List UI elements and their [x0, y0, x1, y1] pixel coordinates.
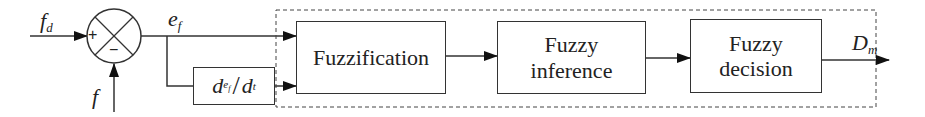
fuzzy-decision-label-line1: Fuzzy	[729, 31, 783, 56]
error-label: ef	[168, 8, 181, 32]
fuzzy-inference-label-line2: inference	[531, 58, 613, 83]
minus-sign: −	[109, 42, 118, 58]
feedback-label: f	[92, 86, 98, 108]
derivative-denominator: d	[242, 73, 253, 98]
output-label: Dm	[852, 32, 877, 56]
fuzzy-decision-label-line2: decision	[719, 56, 792, 81]
derivative-block: def/dt	[193, 67, 275, 105]
error-symbol: e	[168, 6, 178, 31]
fuzzy-decision-block: Fuzzy decision	[690, 19, 822, 93]
setpoint-subscript: d	[46, 20, 53, 35]
fuzzification-label: Fuzzification	[313, 45, 429, 70]
derivative-den-sub: t	[253, 80, 256, 93]
fuzzy-inference-block: Fuzzy inference	[497, 21, 646, 94]
setpoint-label: fd	[40, 10, 53, 34]
plus-sign: +	[88, 27, 97, 43]
derivative-branch-line	[167, 36, 193, 86]
output-symbol: D	[852, 30, 868, 55]
derivative-slash: /	[232, 71, 239, 101]
error-subscript: f	[178, 18, 182, 33]
fuzzy-inference-label-line1: Fuzzy	[545, 32, 599, 57]
derivative-numerator: d	[212, 73, 223, 98]
output-subscript: m	[868, 42, 877, 57]
derivative-num-sub-sub: f	[228, 85, 230, 94]
fuzzification-block: Fuzzification	[296, 21, 446, 94]
